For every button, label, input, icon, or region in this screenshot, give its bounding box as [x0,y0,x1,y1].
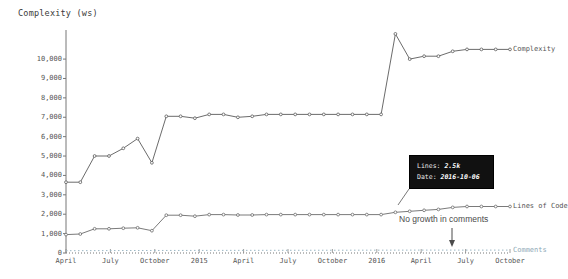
series-data-point [208,113,211,116]
series-data-point [279,113,282,116]
series-data-point [322,213,325,216]
series-data-point [480,48,483,51]
series-data-point [351,113,354,116]
series-data-point [294,213,297,216]
series-data-point [509,48,512,51]
x-tick-label: October [482,257,538,265]
tooltip-row-lines: Lines: 2.5k [417,161,486,172]
series-data-point [151,229,154,232]
y-tick-label: 9,000 [10,74,62,82]
series-data-point [136,226,139,229]
y-tick-label: 7,000 [10,113,62,121]
series-data-point [308,113,311,116]
series-data-point [179,115,182,118]
series-data-point [194,117,197,120]
series-data-point [93,155,96,158]
series-data-point [251,214,254,217]
y-tick-label: 6,000 [10,133,62,141]
series-data-point [466,205,469,208]
series-data-point [265,213,268,216]
series-data-point [451,206,454,209]
series-data-point [365,213,368,216]
series-label-complexity: Complexity [513,45,555,53]
series-data-point [79,233,82,236]
series-data-point [451,50,454,53]
data-point-tooltip: Lines: 2.5k Date: 2016-10-06 [409,155,494,189]
series-data-point [122,147,125,150]
series-data-point [79,181,82,184]
series-data-point [222,113,225,116]
tooltip-date-value: 2016-10-06 [441,173,480,181]
series-data-point [65,181,68,184]
series-data-point [165,214,168,217]
series-data-point [108,227,111,230]
y-tick-label: 10,000 [10,55,62,63]
series-data-point [151,161,154,164]
series-data-point [423,209,426,212]
series-data-point [208,213,211,216]
series-data-point [394,211,397,214]
y-tick-label: 5,000 [10,152,62,160]
series-label-comments: Comments [513,246,547,254]
tooltip-lines-value: 2.5k [444,162,460,170]
y-tick-label: 4,000 [10,171,62,179]
series-data-point [380,213,383,216]
series-data-point [351,213,354,216]
y-tick-label: 3,000 [10,191,62,199]
series-data-point [480,205,483,208]
series-data-point [494,48,497,51]
series-data-point [337,113,340,116]
series-data-point [265,113,268,116]
series-data-point [179,214,182,217]
y-tick-label: 1,000 [10,230,62,238]
tooltip-lines-key: Lines: [417,162,440,170]
series-data-point [93,227,96,230]
series-data-point [308,213,311,216]
series-data-point [337,213,340,216]
y-tick-label: 0 [10,249,62,257]
series-data-point [322,113,325,116]
series-data-point [122,227,125,230]
tooltip-pointer-line [398,189,409,205]
y-tick-label: 8,000 [10,94,62,102]
series-data-point [222,213,225,216]
series-data-point [408,210,411,213]
series-data-point [408,58,411,61]
series-data-point [108,155,111,158]
series-data-point [237,214,240,217]
series-data-point [466,48,469,51]
series-data-point [423,55,426,58]
series-data-point [165,115,168,118]
annotation-arrow [449,228,455,247]
series-data-point [437,208,440,211]
series-data-point [494,205,497,208]
series-data-point [394,33,397,36]
series-data-point [237,116,240,119]
series-data-point [437,55,440,58]
series-data-point [251,115,254,118]
tooltip-date-key: Date: [417,173,437,181]
y-tick-label: 2,000 [10,210,62,218]
series-data-point [380,113,383,116]
series-data-point [365,113,368,116]
series-data-point [136,137,139,140]
series-data-point [65,233,68,236]
tooltip-row-date: Date: 2016-10-06 [417,172,486,183]
series-data-point [509,205,512,208]
series-data-point [194,215,197,218]
series-label-lines-of-code: Lines of Code [513,202,568,210]
series-data-point [279,213,282,216]
series-data-point [294,113,297,116]
annotation-no-growth-in-comments: No growth in comments [399,214,488,224]
